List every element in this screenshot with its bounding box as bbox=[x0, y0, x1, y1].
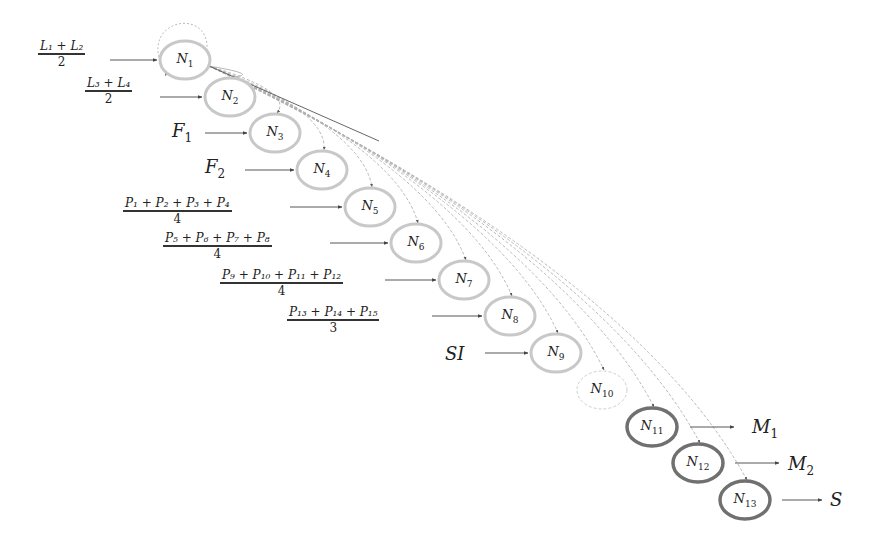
node-label-n11: N11 bbox=[627, 419, 677, 436]
input-fraction-n5: P₁ + P₂ + P₃ + P₄4 bbox=[123, 197, 232, 225]
output-label-n11: M1 bbox=[752, 416, 778, 441]
node-label-n13: N13 bbox=[720, 492, 770, 509]
input-fraction-n7: P₉ + P₁₀ + P₁₁ + P₁₂4 bbox=[220, 269, 343, 297]
output-label-n12: M2 bbox=[788, 453, 814, 478]
node-label-n10: N10 bbox=[577, 382, 627, 399]
fraction-numerator: P₉ + P₁₀ + P₁₁ + P₁₂ bbox=[220, 269, 343, 284]
fraction-denominator: 2 bbox=[85, 92, 132, 105]
node-label-n8: N8 bbox=[485, 308, 535, 325]
input-label-n3: F1 bbox=[172, 120, 192, 145]
node-label-n5: N5 bbox=[345, 199, 395, 216]
fraction-numerator: P₁ + P₂ + P₃ + P₄ bbox=[123, 197, 232, 212]
fraction-denominator: 4 bbox=[123, 212, 232, 225]
input-fraction-n1: L₁ + L₂2 bbox=[38, 40, 85, 68]
input-fraction-n6: P₅ + P₆ + P₇ + P₈4 bbox=[163, 232, 272, 260]
fraction-numerator: L₃ + L₄ bbox=[85, 77, 132, 92]
fraction-denominator: 4 bbox=[163, 247, 272, 260]
input-fraction-n2: L₃ + L₄2 bbox=[85, 77, 132, 105]
output-label-n13: S bbox=[830, 489, 842, 510]
node-label-n3: N3 bbox=[250, 125, 300, 142]
node-label-n2: N2 bbox=[205, 89, 255, 106]
fraction-denominator: 4 bbox=[220, 284, 343, 297]
node-label-n1: N1 bbox=[160, 52, 210, 69]
input-label-n9: SI bbox=[445, 343, 464, 364]
fraction-denominator: 2 bbox=[38, 55, 85, 68]
node-label-n6: N6 bbox=[391, 235, 441, 252]
node-label-n9: N9 bbox=[531, 345, 581, 362]
node-label-n4: N4 bbox=[297, 162, 347, 179]
curve-n1-to-n10 bbox=[209, 66, 604, 370]
fraction-numerator: L₁ + L₂ bbox=[38, 40, 85, 55]
fraction-denominator: 3 bbox=[287, 321, 379, 334]
node-label-n7: N7 bbox=[439, 272, 489, 289]
node-label-n12: N12 bbox=[673, 455, 723, 472]
fraction-numerator: P₁₃ + P₁₄ + P₁₅ bbox=[287, 306, 379, 321]
input-fraction-n8: P₁₃ + P₁₄ + P₁₅3 bbox=[287, 306, 379, 334]
input-label-n4: F2 bbox=[205, 156, 225, 181]
fraction-numerator: P₅ + P₆ + P₇ + P₈ bbox=[163, 232, 272, 247]
